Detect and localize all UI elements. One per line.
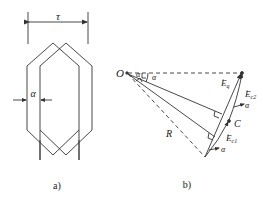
caption-a: a) — [53, 180, 61, 192]
right-angle-mark-top — [142, 73, 146, 78]
alpha-pointer-lower — [209, 148, 219, 150]
center-label: C — [234, 118, 241, 129]
radius-label: R — [165, 128, 172, 139]
coil-left-outer — [27, 43, 79, 155]
alpha-label-c2: α — [245, 101, 250, 110]
angle-arc-1 — [146, 73, 148, 82]
emf-q-dot: · — [222, 76, 224, 84]
emf-c1-dot: · — [227, 131, 229, 139]
offset-label: α — [30, 88, 36, 99]
pitch-label: τ — [56, 10, 61, 22]
point-c — [228, 120, 231, 123]
point-o — [126, 72, 128, 74]
coil-right-outer — [40, 43, 92, 155]
dashed-radius-line — [128, 74, 205, 157]
angle-label-o2: α — [152, 73, 157, 82]
emf-c2-dot: · — [246, 87, 248, 95]
diagram-svg: τ α a) O α α R C Eq · Ec2 — [0, 0, 263, 202]
figure-a — [13, 12, 92, 160]
figure-canvas: τ α a) O α α R C Eq · Ec2 — [0, 0, 263, 202]
origin-label: O — [116, 67, 124, 79]
alpha-pointer-upper — [234, 104, 244, 107]
caption-b: b) — [183, 179, 191, 191]
point-top — [241, 72, 244, 75]
alpha-label-c1: α — [221, 145, 226, 154]
